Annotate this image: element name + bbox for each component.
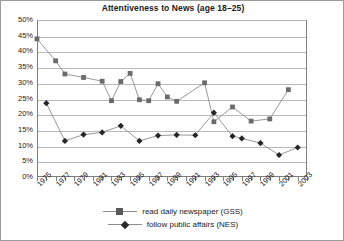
data-point-square [146,98,151,103]
data-point-diamond [257,140,263,146]
data-point-square [174,99,179,104]
series-line [37,39,288,122]
data-point-diamond [155,132,161,138]
data-point-square [118,79,123,84]
data-point-square [35,36,40,41]
legend-label-nes: follow public affairs (NES) [147,220,238,229]
data-point-diamond [276,152,282,158]
y-axis-tick-label: 10% [18,142,33,150]
data-point-square [286,87,291,92]
data-point-square [63,72,68,77]
data-point-square [81,75,86,80]
data-point-square [249,119,254,124]
data-point-square [202,80,207,85]
data-point-diamond [99,129,105,135]
y-axis-tick-label: 45% [18,32,33,40]
series-layer [37,20,307,177]
data-point-square [267,117,272,122]
data-point-square [137,97,142,102]
legend-diamond-marker-icon [108,220,142,230]
data-point-square [230,105,235,110]
data-point-square [100,79,105,84]
data-point-square [212,119,217,124]
y-axis-labels: 50%45%40%35%30%25%20%15%10%5%0% [1,1,37,201]
data-point-square [165,95,170,100]
data-point-diamond [43,100,49,106]
chart-container: Attentiveness to News (age 18–25) 50%45%… [0,0,344,241]
legend-item-gss: read daily newspaper (GSS) [1,205,344,218]
data-point-diamond [174,132,180,138]
data-point-square [109,98,114,103]
chart-title: Attentiveness to News (age 18–25) [1,3,344,13]
y-axis-tick-label: 35% [18,63,33,71]
y-axis-tick-label: 20% [18,110,33,118]
data-point-square [53,58,58,63]
data-point-square [128,71,133,76]
y-axis-tick-label: 50% [18,16,33,24]
y-axis-tick-label: 25% [18,95,33,103]
legend-item-nes: follow public affairs (NES) [1,218,344,231]
y-axis-tick-label: 30% [18,79,33,87]
legend-square-marker-icon [103,207,137,217]
data-point-diamond [62,138,68,144]
data-point-diamond [80,132,86,138]
chart-legend: read daily newspaper (GSS) follow public… [1,205,344,231]
data-point-diamond [295,144,301,150]
legend-label-gss: read daily newspaper (GSS) [142,207,243,216]
y-axis-tick-label: 15% [18,126,33,134]
y-axis-tick-label: 5% [22,157,33,165]
data-point-diamond [239,135,245,141]
series-line [46,103,297,155]
y-axis-tick-label: 40% [18,47,33,55]
data-point-square [156,81,161,86]
